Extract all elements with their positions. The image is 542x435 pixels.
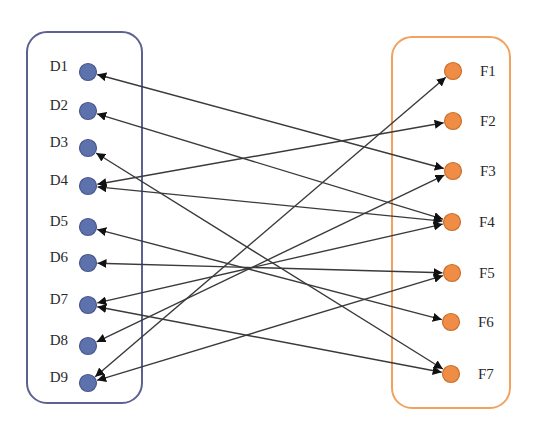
node-circle-icon: [443, 314, 460, 331]
node-label: D8: [50, 332, 68, 348]
edges-layer: [95, 75, 446, 381]
node-d7: D7: [50, 291, 97, 314]
node-label: F4: [479, 214, 495, 230]
node-circle-icon: [80, 375, 97, 392]
node-label: F2: [480, 113, 496, 129]
node-d9: D9: [50, 369, 97, 392]
node-label: F3: [480, 163, 496, 179]
node-circle-icon: [80, 103, 97, 120]
node-label: D7: [50, 291, 69, 307]
node-f1: F1: [445, 63, 496, 80]
edge-d6-f5: [98, 263, 443, 272]
node-d5: D5: [50, 213, 97, 236]
node-circle-icon: [80, 178, 97, 195]
bipartite-diagram: D1D2D3D4D5D6D7D8D9F1F2F3F4F5F6F7: [0, 0, 542, 435]
node-label: D3: [50, 134, 68, 150]
node-circle-icon: [445, 63, 462, 80]
node-d1: D1: [50, 58, 97, 81]
node-label: F5: [479, 265, 495, 281]
node-circle-icon: [444, 265, 461, 282]
node-f6: F6: [443, 314, 495, 331]
node-d3: D3: [50, 134, 97, 157]
node-label: D4: [50, 172, 69, 188]
node-circle-icon: [445, 113, 462, 130]
node-label: F6: [478, 314, 494, 330]
node-d8: D8: [50, 332, 97, 355]
node-label: F7: [478, 366, 494, 382]
node-f4: F4: [444, 214, 496, 231]
node-f5: F5: [444, 265, 495, 282]
node-circle-icon: [80, 140, 97, 157]
node-circle-icon: [444, 214, 461, 231]
node-d6: D6: [50, 249, 97, 272]
node-d4: D4: [50, 172, 97, 195]
node-circle-icon: [80, 64, 97, 81]
node-circle-icon: [80, 255, 97, 272]
node-circle-icon: [80, 219, 97, 236]
node-label: D1: [50, 58, 68, 74]
node-label: D9: [50, 369, 68, 385]
node-circle-icon: [445, 163, 462, 180]
node-circle-icon: [443, 366, 460, 383]
edge-d5-f6: [97, 229, 442, 319]
node-f7: F7: [443, 366, 495, 383]
node-f3: F3: [445, 163, 496, 180]
node-circle-icon: [80, 338, 97, 355]
node-label: D2: [50, 97, 68, 113]
node-circle-icon: [80, 297, 97, 314]
node-label: F1: [480, 63, 496, 79]
node-label: D6: [50, 249, 69, 265]
node-label: D5: [50, 213, 68, 229]
edge-d3-f7: [96, 153, 443, 369]
node-d2: D2: [50, 97, 97, 120]
node-f2: F2: [445, 113, 496, 130]
